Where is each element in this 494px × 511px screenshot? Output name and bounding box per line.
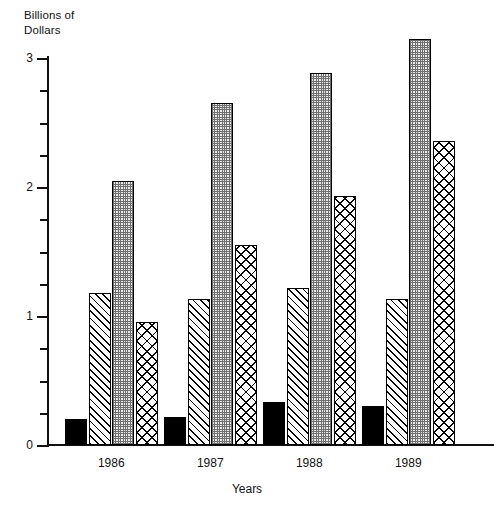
bar-group-1988 — [263, 58, 356, 445]
y-axis-minor-tick — [40, 284, 47, 286]
y-axis-major-tick — [37, 445, 47, 447]
bar-1988-series-3 — [310, 73, 332, 445]
bar-1987-series-2 — [188, 299, 210, 445]
y-axis-major-tick — [37, 187, 47, 189]
x-axis-title: Years — [0, 482, 494, 496]
y-axis-minor-tick — [40, 413, 47, 415]
y-axis-minor-tick — [40, 123, 47, 125]
plot-area — [47, 58, 494, 445]
bar-1989-series-4 — [433, 141, 455, 445]
bar-group-1987 — [164, 58, 257, 445]
y-axis-minor-tick — [40, 348, 47, 350]
x-axis-tick-label-1986: 1986 — [98, 456, 125, 470]
bar-1986-series-3 — [112, 181, 134, 445]
bar-1987-series-3 — [211, 103, 233, 445]
x-axis-tick-label-1989: 1989 — [395, 456, 422, 470]
bar-1986-series-2 — [89, 293, 111, 445]
y-axis-tick-label: 2 — [26, 180, 33, 194]
y-axis-title: Billions of Dollars — [24, 8, 74, 37]
bar-1987-series-4 — [235, 245, 257, 445]
y-axis-tick-label: 0 — [26, 438, 33, 452]
y-axis-minor-tick — [40, 90, 47, 92]
y-axis-tick-label: 3 — [26, 51, 33, 65]
y-axis-minor-tick — [40, 381, 47, 383]
bar-1989-series-2 — [386, 299, 408, 445]
bar-1986-series-1 — [65, 419, 87, 445]
x-axis-tick-label-1988: 1988 — [296, 456, 323, 470]
bar-1987-series-1 — [164, 417, 186, 445]
bar-group-1989 — [362, 58, 455, 445]
x-axis-tick-label-1987: 1987 — [197, 456, 224, 470]
y-axis-tick-label: 1 — [26, 309, 33, 323]
bar-1986-series-4 — [136, 322, 158, 445]
bar-1988-series-2 — [287, 288, 309, 445]
y-axis-minor-tick — [40, 219, 47, 221]
bar-1988-series-4 — [334, 196, 356, 445]
bar-group-1986 — [65, 58, 158, 445]
y-axis-major-tick — [37, 316, 47, 318]
y-axis-major-tick — [37, 58, 47, 60]
bar-1988-series-1 — [263, 402, 285, 445]
bar-1989-series-3 — [409, 39, 431, 445]
y-axis-minor-tick — [40, 155, 47, 157]
y-axis-minor-tick — [40, 252, 47, 254]
bar-1989-series-1 — [362, 406, 384, 445]
bar-chart-figure: Billions of Dollars Years 01231986198719… — [0, 0, 494, 511]
